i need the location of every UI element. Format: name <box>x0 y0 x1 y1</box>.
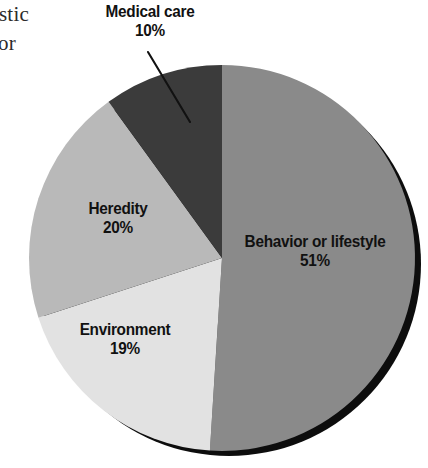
pie-label-heredity-name: Heredity <box>88 199 147 217</box>
pie-chart-figure: stic or Medical care 10% Heredity 20% En… <box>0 0 428 468</box>
pie-label-heredity-value: 20% <box>62 218 174 237</box>
pie-label-behavior-or-lifestyle-value: 51% <box>236 251 394 270</box>
pie-label-environment-name: Environment <box>80 320 171 338</box>
pie-label-environment-value: 19% <box>52 339 197 358</box>
pie-label-heredity: Heredity 20% <box>62 199 174 237</box>
pie-label-environment: Environment 19% <box>52 320 197 358</box>
pie-label-medical-care: Medical care 10% <box>59 2 241 40</box>
pie-label-behavior-or-lifestyle-name: Behavior or lifestyle <box>245 232 386 250</box>
pie-label-behavior-or-lifestyle: Behavior or lifestyle 51% <box>236 232 394 270</box>
pie-label-medical-care-name: Medical care <box>106 2 195 20</box>
pie-label-medical-care-value: 10% <box>59 21 241 40</box>
